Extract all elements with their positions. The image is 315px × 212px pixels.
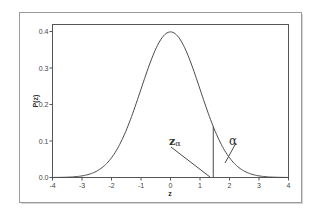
normal-distribution-chart: 0.00.10.20.30.4 -4-3-2-101234 P(z) z zα … xyxy=(0,0,315,212)
y-tick-label: 0.1 xyxy=(39,138,49,145)
x-tick-label: 4 xyxy=(287,182,291,189)
x-tick-label: 2 xyxy=(228,182,232,189)
x-tick-label: -2 xyxy=(108,182,114,189)
outer-frame xyxy=(20,13,302,203)
x-tick-label: 1 xyxy=(198,182,202,189)
y-tick-label: 0.2 xyxy=(39,101,49,108)
y-tick-label: 0.4 xyxy=(39,28,49,35)
x-tick-label: 3 xyxy=(257,182,261,189)
y-tick-label: 0.0 xyxy=(39,174,49,181)
x-axis-title: z xyxy=(168,190,172,197)
x-tick-label: 0 xyxy=(169,182,173,189)
x-tick-label: -3 xyxy=(79,182,85,189)
y-axis-title: P(z) xyxy=(32,95,40,108)
y-tick-label: 0.3 xyxy=(39,65,49,72)
alpha-label: α xyxy=(229,134,237,148)
x-tick-label: -1 xyxy=(138,182,144,189)
x-tick-label: -4 xyxy=(49,182,55,189)
